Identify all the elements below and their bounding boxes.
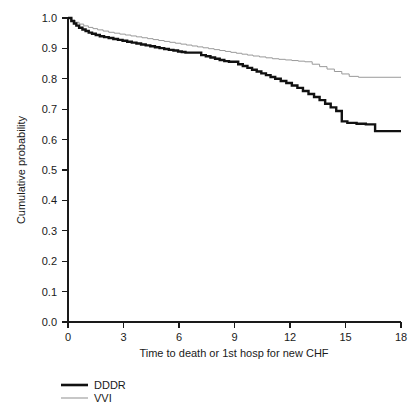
y-tick-label: 0.2 xyxy=(42,255,57,267)
kaplan-meier-figure: 0.00.10.20.30.40.50.60.70.80.91.0 036912… xyxy=(0,0,415,409)
y-tick-label: 1.0 xyxy=(42,12,57,24)
x-tick-label: 12 xyxy=(284,331,296,343)
x-tick-label: 0 xyxy=(65,331,71,343)
y-tick-label: 0.1 xyxy=(42,286,57,298)
y-axis-title: Cumulative probability xyxy=(15,115,27,224)
x-tick-label: 3 xyxy=(120,331,126,343)
x-tick-label: 18 xyxy=(395,331,407,343)
x-axis-title: Time to death or 1st hosp for new CHF xyxy=(139,347,328,359)
legend-label-vvi: VVI xyxy=(94,392,112,404)
x-tick-label: 6 xyxy=(176,331,182,343)
y-tick-label: 0.0 xyxy=(42,316,57,328)
x-tick-label: 15 xyxy=(339,331,351,343)
y-tick-label: 0.9 xyxy=(42,42,57,54)
x-tick-label: 9 xyxy=(231,331,237,343)
y-tick-label: 0.4 xyxy=(42,194,57,206)
y-tick-label: 0.5 xyxy=(42,164,57,176)
y-tick-label: 0.6 xyxy=(42,134,57,146)
y-tick-label: 0.8 xyxy=(42,73,57,85)
y-tick-label: 0.7 xyxy=(42,103,57,115)
y-tick-label: 0.3 xyxy=(42,225,57,237)
legend-label-dddr: DDDR xyxy=(94,379,126,391)
survival-curve-chart: 0.00.10.20.30.40.50.60.70.80.91.0 036912… xyxy=(0,0,415,409)
